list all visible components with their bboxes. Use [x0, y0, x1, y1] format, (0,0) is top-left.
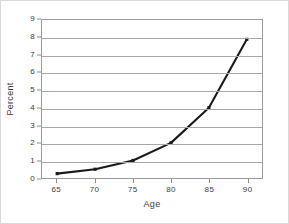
plot-area — [41, 19, 263, 179]
chart-figure: Percent 0123456789 657075808590 Age — [0, 0, 289, 224]
x-axis-tick-label: 80 — [166, 186, 176, 194]
gridline — [42, 73, 262, 74]
y-axis-tick-label: 5 — [30, 86, 35, 94]
gridline — [42, 144, 262, 145]
x-axis-tick-mark — [248, 179, 249, 183]
x-axis-tick-mark — [133, 179, 134, 183]
x-axis-tick-label: 75 — [128, 186, 138, 194]
series-data-point — [94, 168, 97, 171]
y-axis-tick-label: 6 — [30, 68, 35, 76]
y-axis-tick-label: 3 — [30, 122, 35, 130]
x-axis-tick-label: 90 — [243, 186, 253, 194]
y-axis-tick-label: 2 — [30, 139, 35, 147]
x-axis-tick-labels: 657075808590 — [41, 179, 263, 199]
x-axis-tick-mark — [95, 179, 96, 183]
y-axis-tick-labels: 0123456789 — [1, 19, 41, 179]
y-axis-tick-label: 8 — [30, 33, 35, 41]
y-axis-tick-label: 0 — [30, 175, 35, 183]
x-axis-tick-label: 65 — [51, 186, 61, 194]
gridline — [42, 91, 262, 92]
x-axis-tick-label: 85 — [205, 186, 215, 194]
gridline — [42, 56, 262, 57]
gridline — [42, 109, 262, 110]
series-data-point — [56, 172, 59, 175]
y-axis-tick-label: 1 — [30, 157, 35, 165]
gridline — [42, 127, 262, 128]
x-axis-tick-label: 70 — [90, 186, 100, 194]
gridline — [42, 38, 262, 39]
x-axis-tick-mark — [56, 179, 57, 183]
y-axis-tick-label: 7 — [30, 51, 35, 59]
series-line — [57, 39, 247, 173]
y-axis-tick-label: 9 — [30, 15, 35, 23]
x-axis-title: Age — [41, 199, 263, 209]
gridline — [42, 162, 262, 163]
x-axis-tick-mark — [171, 179, 172, 183]
y-axis-tick-label: 4 — [30, 104, 35, 112]
x-axis-tick-mark — [209, 179, 210, 183]
series-line-chart — [42, 20, 262, 178]
